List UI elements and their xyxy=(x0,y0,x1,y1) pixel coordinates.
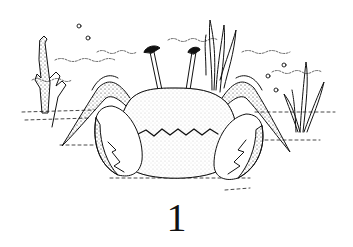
seaweed-center xyxy=(205,20,236,92)
crab-eyestalks xyxy=(144,46,200,90)
seaweed-left xyxy=(35,36,66,127)
caption-number: 1 xyxy=(0,196,353,240)
crab-illustration xyxy=(0,0,353,200)
seaweed-right xyxy=(284,62,324,132)
water-ripples xyxy=(32,39,322,82)
